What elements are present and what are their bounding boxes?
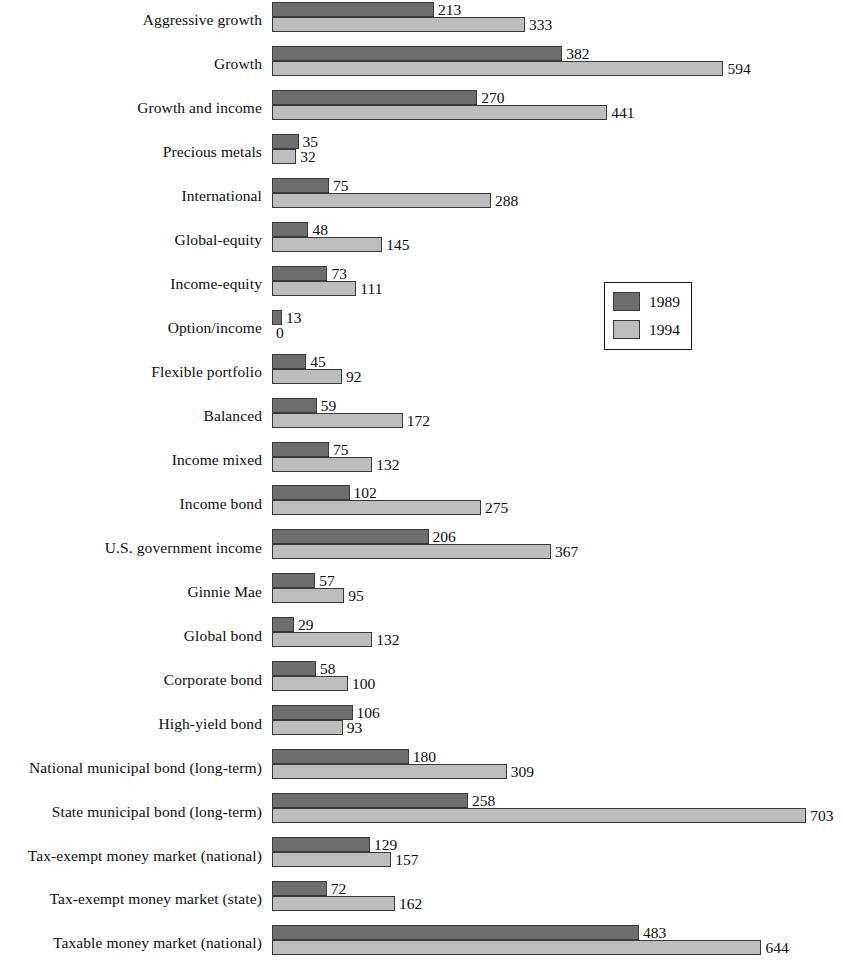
category-label: Flexible portfolio bbox=[0, 352, 262, 392]
chart-row: Option/income130 bbox=[0, 308, 843, 348]
bar-1994 bbox=[272, 413, 403, 428]
bar-1994 bbox=[272, 896, 395, 911]
chart-row: National municipal bond (long-term)18030… bbox=[0, 747, 843, 787]
bar-1989 bbox=[272, 793, 468, 808]
bar-value-1994: 275 bbox=[485, 500, 508, 516]
chart-row: Income bond102275 bbox=[0, 483, 843, 523]
bar-1994 bbox=[272, 588, 344, 603]
bar-1989 bbox=[272, 661, 316, 676]
bar-value-1989: 58 bbox=[320, 661, 336, 677]
category-label: International bbox=[0, 176, 262, 216]
category-label: Global bond bbox=[0, 615, 262, 655]
category-label: Ginnie Mae bbox=[0, 571, 262, 611]
bar-value-1989: 59 bbox=[321, 398, 337, 414]
bar-value-1994: 333 bbox=[529, 17, 552, 33]
chart-row: Ginnie Mae5795 bbox=[0, 571, 843, 611]
chart-row: Balanced59172 bbox=[0, 396, 843, 436]
bar-value-1994: 367 bbox=[555, 544, 578, 560]
bar-value-1989: 75 bbox=[333, 442, 349, 458]
chart-row: Growth382594 bbox=[0, 44, 843, 84]
bar-value-1994: 703 bbox=[810, 808, 833, 824]
bar-1994 bbox=[272, 720, 343, 735]
bar-value-1994: 32 bbox=[300, 149, 316, 165]
category-label: Balanced bbox=[0, 396, 262, 436]
bar-value-1994: 0 bbox=[276, 325, 284, 341]
bar-1994 bbox=[272, 369, 342, 384]
bar-1994 bbox=[272, 940, 761, 955]
bar-chart: Aggressive growth213333Growth382594Growt… bbox=[0, 0, 843, 971]
bar-1989 bbox=[272, 2, 434, 17]
bar-value-1989: 180 bbox=[413, 749, 436, 765]
chart-legend: 1989 1994 bbox=[604, 282, 692, 350]
bar-1994 bbox=[272, 544, 551, 559]
bar-value-1989: 129 bbox=[374, 837, 397, 853]
chart-row: Tax-exempt money market (state)72162 bbox=[0, 879, 843, 919]
bar-value-1994: 92 bbox=[346, 369, 362, 385]
bar-value-1989: 270 bbox=[481, 90, 504, 106]
bar-value-1989: 75 bbox=[333, 178, 349, 194]
legend-item-1994: 1994 bbox=[613, 320, 680, 339]
category-label: Precious metals bbox=[0, 132, 262, 172]
bar-1994 bbox=[272, 237, 382, 252]
legend-item-1989: 1989 bbox=[613, 292, 680, 311]
chart-row: Flexible portfolio4592 bbox=[0, 352, 843, 392]
bar-1994 bbox=[272, 632, 372, 647]
bar-value-1994: 132 bbox=[376, 457, 399, 473]
legend-label-1989: 1989 bbox=[649, 294, 680, 310]
bar-value-1994: 644 bbox=[765, 940, 788, 956]
bar-1989 bbox=[272, 354, 306, 369]
bar-value-1989: 45 bbox=[310, 354, 326, 370]
category-label: Income bond bbox=[0, 483, 262, 523]
bar-value-1994: 111 bbox=[360, 281, 382, 297]
bar-value-1994: 441 bbox=[611, 105, 634, 121]
bar-value-1989: 206 bbox=[433, 529, 456, 545]
chart-row: Corporate bond58100 bbox=[0, 659, 843, 699]
category-label: Income mixed bbox=[0, 440, 262, 480]
bar-value-1994: 309 bbox=[511, 764, 534, 780]
bar-1989 bbox=[272, 222, 308, 237]
category-label: Tax-exempt money market (state) bbox=[0, 879, 262, 919]
bar-1994 bbox=[272, 149, 296, 164]
chart-row: Income-equity73111 bbox=[0, 264, 843, 304]
chart-row: Tax-exempt money market (national)129157 bbox=[0, 835, 843, 875]
bar-1989 bbox=[272, 529, 429, 544]
category-label: Taxable money market (national) bbox=[0, 923, 262, 963]
bar-value-1994: 594 bbox=[727, 61, 750, 77]
bar-value-1989: 483 bbox=[643, 925, 666, 941]
category-label: Option/income bbox=[0, 308, 262, 348]
bar-value-1994: 172 bbox=[407, 413, 430, 429]
bar-1994 bbox=[272, 764, 507, 779]
bar-1994 bbox=[272, 808, 806, 823]
chart-row: Growth and income270441 bbox=[0, 88, 843, 128]
bar-1989 bbox=[272, 442, 329, 457]
category-label: U.S. government income bbox=[0, 527, 262, 567]
category-label: Growth bbox=[0, 44, 262, 84]
category-label: Aggressive growth bbox=[0, 0, 262, 40]
category-label: High-yield bond bbox=[0, 703, 262, 743]
bar-1989 bbox=[272, 617, 294, 632]
bar-value-1994: 95 bbox=[348, 588, 364, 604]
category-label: Growth and income bbox=[0, 88, 262, 128]
bar-1989 bbox=[272, 749, 409, 764]
bar-value-1989: 73 bbox=[331, 266, 347, 282]
bar-1994 bbox=[272, 193, 491, 208]
bar-1989 bbox=[272, 705, 353, 720]
bar-1989 bbox=[272, 310, 282, 325]
bar-value-1989: 48 bbox=[312, 222, 328, 238]
legend-label-1994: 1994 bbox=[649, 322, 680, 338]
chart-row: U.S. government income206367 bbox=[0, 527, 843, 567]
chart-row: High-yield bond10693 bbox=[0, 703, 843, 743]
bar-value-1994: 100 bbox=[352, 676, 375, 692]
bar-value-1994: 162 bbox=[399, 896, 422, 912]
bar-value-1989: 102 bbox=[354, 485, 377, 501]
bar-1989 bbox=[272, 46, 562, 61]
bar-1989 bbox=[272, 925, 639, 940]
bar-1994 bbox=[272, 105, 607, 120]
bar-value-1989: 258 bbox=[472, 793, 495, 809]
bar-value-1994: 288 bbox=[495, 193, 518, 209]
chart-row: Taxable money market (national)483644 bbox=[0, 923, 843, 963]
legend-swatch-1994 bbox=[613, 320, 640, 339]
bar-1994 bbox=[272, 500, 481, 515]
category-label: Income-equity bbox=[0, 264, 262, 304]
bar-1989 bbox=[272, 837, 370, 852]
